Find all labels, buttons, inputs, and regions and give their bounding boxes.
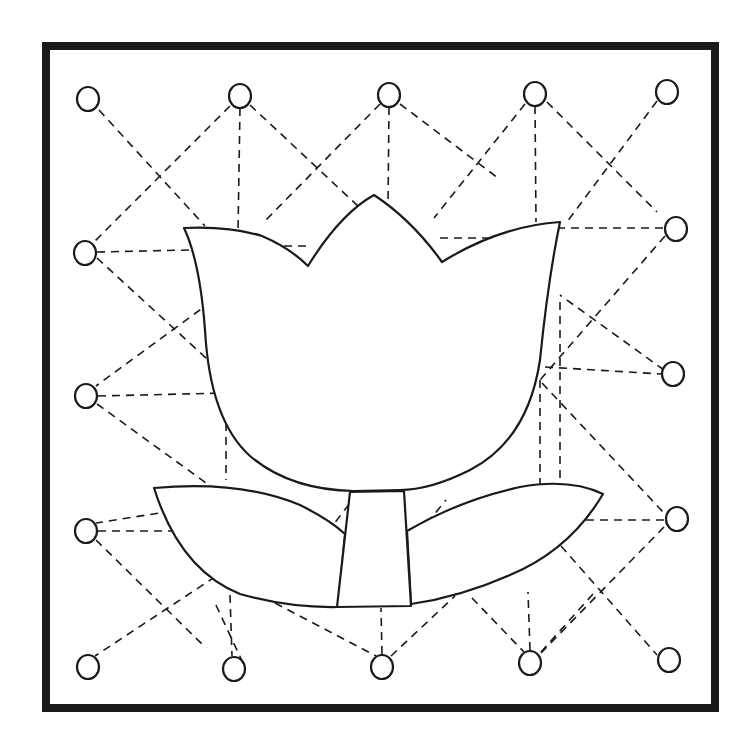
dashed-line <box>275 603 376 656</box>
dashed-line <box>230 595 232 656</box>
circle-dot <box>656 80 678 104</box>
tulip <box>154 195 603 607</box>
stem <box>337 491 411 607</box>
dashed-line <box>388 107 389 207</box>
circle-dot <box>524 82 546 106</box>
circle-dot <box>666 507 688 531</box>
circle-dot <box>665 217 687 241</box>
dashed-line <box>215 603 243 663</box>
dashed-line <box>97 250 190 252</box>
dashed-line <box>528 592 530 650</box>
dashed-line <box>540 236 665 380</box>
circle-dot <box>662 362 684 386</box>
right-leaf <box>407 484 603 604</box>
circle-dot <box>74 241 96 265</box>
left-leaf <box>154 486 345 607</box>
dashed-line <box>250 105 360 208</box>
dashed-line <box>434 104 525 218</box>
dashed-line <box>535 106 536 222</box>
dashed-line <box>400 104 498 178</box>
circle-dot <box>77 655 99 679</box>
dashed-line <box>98 393 226 396</box>
circle-dot <box>658 648 680 672</box>
dashed-line <box>381 608 382 654</box>
dashed-line <box>547 102 657 212</box>
dashed-line <box>96 511 172 523</box>
dashed-line <box>472 598 524 652</box>
dashed-line <box>560 295 664 370</box>
circle-dot <box>77 87 99 111</box>
tulip-quilt-illustration <box>0 0 752 752</box>
tulip-flower <box>184 195 560 491</box>
circle-dot <box>519 651 541 675</box>
dashed-line <box>99 110 205 226</box>
dashed-line <box>95 569 227 656</box>
dashed-line <box>97 404 224 496</box>
dashed-line <box>545 367 662 374</box>
dashed-line <box>567 101 657 222</box>
circle-dot <box>371 655 393 679</box>
circle-dot <box>75 519 97 543</box>
circle-dot <box>75 384 97 408</box>
circle-dot <box>378 83 400 107</box>
circle-dot <box>223 657 245 681</box>
circle-dot <box>229 84 251 108</box>
dashed-line <box>238 108 240 232</box>
dashed-line <box>541 594 593 652</box>
dashed-line <box>561 546 657 655</box>
dashed-line <box>94 106 230 242</box>
